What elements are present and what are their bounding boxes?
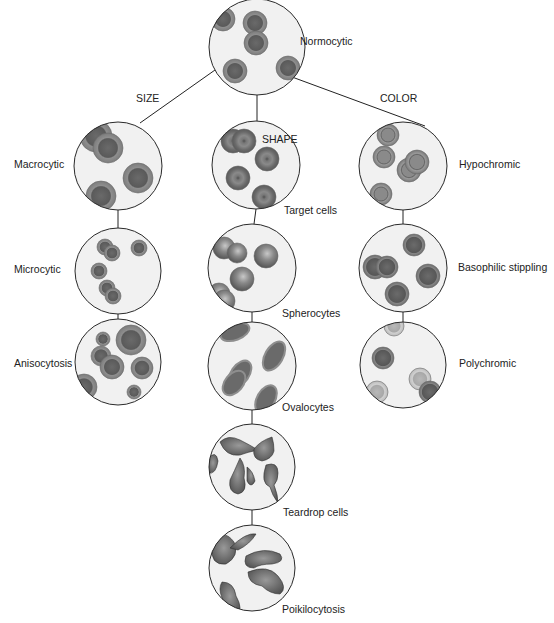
branch-label-size: SIZE [136,92,159,104]
label-basophilic-stippling: Basophilic stippling [458,261,547,273]
label-macrocytic: Macrocytic [14,158,64,170]
red-blood-cell [211,7,235,31]
branch-label-color: COLOR [380,92,417,104]
poikilocytosis-smear [202,525,295,614]
red-blood-cell [370,183,392,205]
red-blood-cell [100,355,124,379]
anisocytosis-smear [71,319,161,405]
red-blood-cell [104,245,120,261]
poikilocyte-cell [202,576,210,592]
macrocytic-smear [74,120,162,211]
red-blood-cell [123,163,153,193]
label-target-cells: Target cells [284,204,337,216]
label-microcytic: Microcytic [14,263,61,275]
spherocytes-smear [208,224,296,312]
branch-label-shape: SHAPE [262,133,298,145]
red-blood-cell [255,147,279,171]
teardrop-cells-smear [208,424,295,510]
red-blood-cell [232,129,256,153]
red-blood-cell [131,240,147,256]
red-blood-cell [377,124,399,146]
label-ovalocytes: Ovalocytes [282,401,334,413]
hypochromic-smear [359,122,447,210]
red-blood-cell [127,385,141,399]
label-teardrop-cells: Teardrop cells [283,506,348,518]
red-blood-cell [419,381,441,403]
label-hypochromic: Hypochromic [459,158,520,170]
red-blood-cell [384,316,404,336]
red-blood-cell [230,267,254,291]
red-blood-cell [96,332,110,346]
label-spherocytes: Spherocytes [282,307,340,319]
normocytic-smear [209,0,305,95]
red-blood-cell [385,282,409,306]
red-blood-cell [131,357,153,379]
red-blood-cell [416,264,440,288]
label-normocytic: Normocytic [300,35,353,47]
label-polychromic: Polychromic [459,357,516,369]
red-blood-cell [105,288,121,304]
red-blood-cell [244,31,268,55]
rbc-morphology-diagram [0,0,554,623]
microcytic-smear [75,228,161,314]
red-blood-cell [372,347,394,369]
red-blood-cell [405,150,429,174]
label-poikilocytosis: Poikilocytosis [282,603,345,615]
basophilic-stippling-smear [359,224,447,312]
red-blood-cell [116,325,146,355]
red-blood-cell [223,59,247,83]
red-blood-cell [254,244,278,268]
red-blood-cell [227,243,247,263]
label-anisocytosis: Anisocytosis [14,357,72,369]
red-blood-cell [71,374,97,400]
red-blood-cell [403,234,425,256]
red-blood-cell [91,263,107,279]
red-blood-cell [93,133,123,163]
red-blood-cell [376,256,398,278]
red-blood-cell [373,146,395,168]
red-blood-cell [226,166,250,190]
polychromic-smear [360,316,446,408]
red-blood-cell [276,56,300,80]
